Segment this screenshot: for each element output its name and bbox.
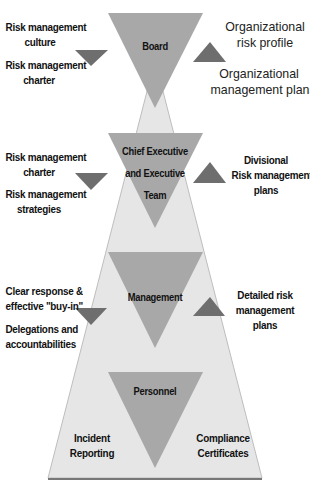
board-output-arrow-icon — [193, 42, 226, 62]
ceo-label-line2: and Executive — [113, 162, 198, 184]
board-output-risk-profile-line2: risk profile — [222, 35, 308, 51]
ceo-output-line1: Divisional — [232, 153, 301, 168]
board-input-culture-line2: culture — [6, 35, 75, 50]
ceo-label-line1: Chief Executive — [113, 140, 198, 162]
ceo-input-charter-line2: charter — [5, 165, 72, 180]
ceo-input-charter-line1: Risk management — [5, 150, 72, 165]
management-input-buy-in: Clear response & effective "buy-in" — [6, 284, 75, 314]
board-input-charter: Risk management charter — [5, 58, 72, 88]
board-input-charter-line1: Risk management — [5, 58, 72, 73]
personnel-label: Personnel — [113, 380, 198, 402]
board-input-culture-line1: Risk management — [6, 20, 75, 35]
management-input-delegations-line1: Delegations and — [5, 322, 72, 337]
ceo-output-divisional-plans: Divisional Risk management plans — [232, 153, 301, 198]
board-output-management-plans: Organizational management plans — [211, 66, 308, 98]
board-output-risk-profile-line1: Organizational — [222, 19, 308, 35]
ceo-input-strategies: Risk management strategies — [5, 187, 72, 217]
ceo-input-strategies-line1: Risk management — [5, 187, 72, 202]
board-output-management-plans-line2: management plans — [211, 82, 308, 98]
management-input-delegations-line2: accountabilities — [5, 337, 72, 352]
personnel-output-line2: Certificates — [190, 446, 255, 461]
board-triangle — [108, 13, 203, 108]
ceo-input-strategies-line2: strategies — [5, 202, 72, 217]
board-input-charter-line2: charter — [5, 73, 72, 88]
management-input-buy-in-line1: Clear response & — [6, 284, 75, 299]
personnel-input-incident-reporting: Incident Reporting — [66, 431, 118, 461]
board-label: Board — [130, 35, 181, 57]
personnel-input-line2: Reporting — [66, 446, 118, 461]
personnel-output-compliance-certificates: Compliance Certificates — [190, 431, 255, 461]
management-output-line3: plans — [231, 318, 300, 333]
management-output-line1: Detailed risk — [231, 288, 300, 303]
ceo-input-charter: Risk management charter — [5, 150, 72, 180]
ceo-output-arrow-icon — [193, 162, 226, 183]
personnel-output-line1: Compliance — [190, 431, 255, 446]
management-input-buy-in-line2: effective "buy-in" — [6, 299, 75, 314]
personnel-input-line1: Incident — [66, 431, 118, 446]
management-input-delegations: Delegations and accountabilities — [5, 322, 72, 352]
board-output-risk-profile: Organizational risk profile — [222, 19, 308, 51]
management-label: Management — [113, 286, 198, 308]
board-output-management-plans-line1: Organizational — [211, 66, 308, 82]
ceo-label-line3: Team — [113, 184, 198, 206]
ceo-output-line2: Risk management — [232, 168, 301, 183]
board-input-culture: Risk management culture — [6, 20, 75, 50]
management-output-detailed-plans: Detailed risk management plans — [231, 288, 300, 333]
ceo-output-line3: plans — [232, 183, 301, 198]
management-output-line2: management — [231, 303, 300, 318]
